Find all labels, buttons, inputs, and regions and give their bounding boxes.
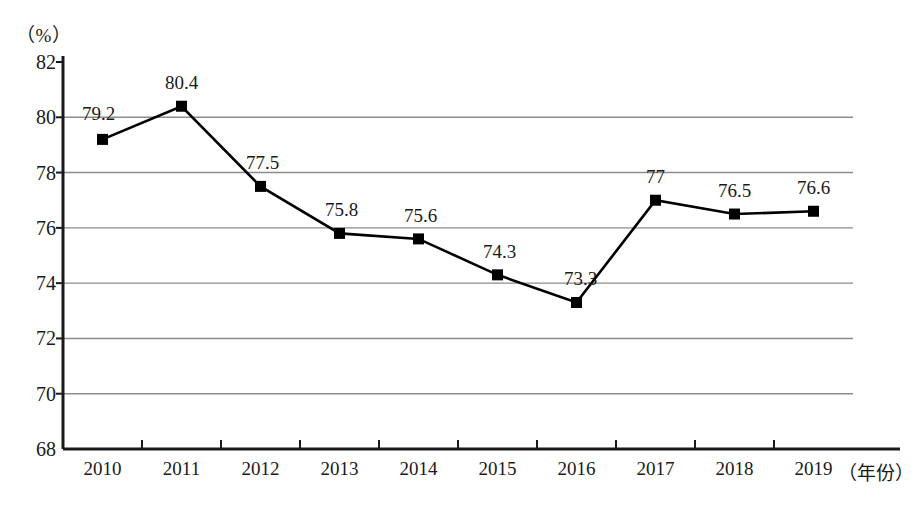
data-point-label: 77 bbox=[646, 166, 665, 188]
data-point-marker bbox=[492, 269, 503, 280]
x-axis-tick-label: 2015 bbox=[479, 458, 517, 480]
data-point-marker bbox=[176, 101, 187, 112]
data-point-label: 73.3 bbox=[564, 268, 597, 290]
data-line bbox=[103, 106, 814, 302]
y-axis-tick-label: 80 bbox=[12, 106, 56, 129]
data-point-label: 75.6 bbox=[404, 205, 437, 227]
data-point-marker bbox=[334, 228, 345, 239]
x-axis-tick-label: 2017 bbox=[637, 458, 675, 480]
y-axis-tick-label: 72 bbox=[12, 327, 56, 350]
x-axis-tick-label: 2018 bbox=[716, 458, 754, 480]
y-axis-tick-labels: 8280787674727068 bbox=[6, 0, 56, 522]
figure-caption bbox=[0, 516, 914, 522]
x-axis-tick-label: 2016 bbox=[558, 458, 596, 480]
data-point-marker bbox=[729, 209, 740, 220]
line-chart: （%） 8280787674727068 2010201120122013201… bbox=[0, 0, 914, 522]
data-point-label: 75.8 bbox=[325, 199, 358, 221]
data-point-label: 76.6 bbox=[797, 177, 830, 199]
chart-plot-area bbox=[0, 0, 914, 522]
y-axis-tick-label: 82 bbox=[12, 51, 56, 74]
y-axis-tick-label: 78 bbox=[12, 161, 56, 184]
data-point-label: 80.4 bbox=[165, 72, 198, 94]
x-axis-tick-label: 2014 bbox=[400, 458, 438, 480]
x-axis-tick-label: 2019 bbox=[795, 458, 833, 480]
x-axis-tick-label: 2012 bbox=[242, 458, 280, 480]
data-point-label: 74.3 bbox=[483, 241, 516, 263]
y-axis-tick-label: 76 bbox=[12, 216, 56, 239]
y-axis-tick-label: 68 bbox=[12, 438, 56, 461]
data-point-marker bbox=[97, 134, 108, 145]
y-axis-tick-label: 74 bbox=[12, 272, 56, 295]
y-axis-tick-label: 70 bbox=[12, 382, 56, 405]
data-point-marker bbox=[255, 181, 266, 192]
data-point-label: 77.5 bbox=[246, 152, 279, 174]
x-axis-title: （年份） bbox=[838, 458, 914, 485]
data-point-label: 76.5 bbox=[718, 180, 751, 202]
axes bbox=[56, 56, 900, 449]
data-point-marker bbox=[650, 195, 661, 206]
x-axis-tick-label: 2010 bbox=[84, 458, 122, 480]
data-point-marker bbox=[413, 233, 424, 244]
data-point-label: 79.2 bbox=[82, 103, 115, 125]
data-point-marker bbox=[571, 297, 582, 308]
data-point-marker bbox=[808, 206, 819, 217]
x-axis-tick-label: 2013 bbox=[321, 458, 359, 480]
x-axis-tick-label: 2011 bbox=[163, 458, 200, 480]
